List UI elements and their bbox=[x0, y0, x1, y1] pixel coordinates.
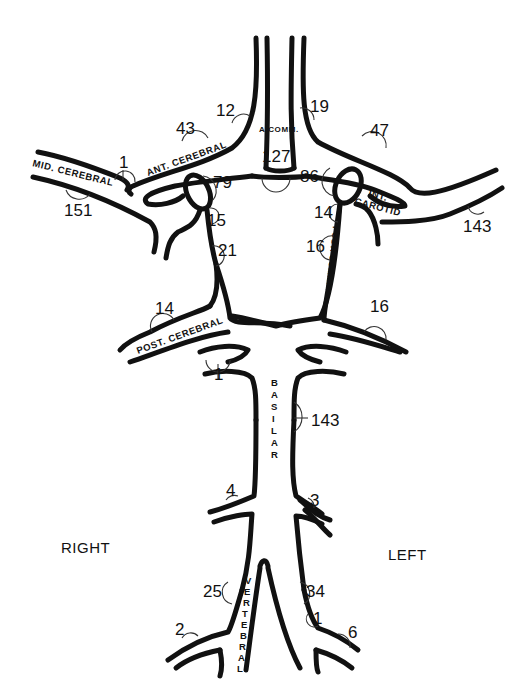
value-r-vertebral: 25 bbox=[203, 582, 222, 601]
svg-text:E: E bbox=[241, 619, 248, 630]
value-r-carotid-top: 79 bbox=[213, 173, 232, 192]
value-r-post-comm: 21 bbox=[218, 241, 237, 260]
value-basilar: 143 bbox=[311, 411, 339, 430]
svg-text:I: I bbox=[272, 413, 275, 424]
value-r-ant-cerebral: 43 bbox=[176, 119, 195, 138]
value-r-aica: 4 bbox=[226, 481, 235, 500]
svg-text:A: A bbox=[271, 437, 278, 448]
svg-text:R: R bbox=[271, 449, 278, 460]
value-l-post-cerebral: 16 bbox=[370, 297, 389, 316]
orientation-left-label: LEFT bbox=[388, 546, 427, 563]
value-l-aica: 3 bbox=[310, 491, 319, 510]
value-a-comm: 127 bbox=[262, 147, 290, 166]
value-l-vertebral: 34 bbox=[306, 582, 325, 601]
svg-text:B: B bbox=[271, 377, 278, 388]
value-r-pica: 2 bbox=[175, 620, 184, 639]
svg-text:A: A bbox=[271, 389, 278, 400]
circle-of-willis-diagram: MID. CEREBRAL ANT. CEREBRAL A.COMM. INT.… bbox=[0, 0, 528, 693]
value-r-carotid-low: 15 bbox=[207, 211, 226, 230]
value-r-mid-cerebral: 151 bbox=[64, 201, 92, 220]
svg-text:L: L bbox=[237, 663, 243, 674]
value-l-carotid-top: 86 bbox=[300, 167, 319, 186]
value-l-mid-cerebral: 143 bbox=[463, 217, 491, 236]
svg-text:T: T bbox=[242, 608, 248, 619]
svg-text:R: R bbox=[243, 597, 250, 608]
label-post-comm: POST. COMM. bbox=[325, 226, 340, 286]
value-l-ant-cerebral-distal: 19 bbox=[310, 97, 329, 116]
svg-text:L: L bbox=[271, 425, 277, 436]
value-l-ant-cerebral: 47 bbox=[370, 121, 389, 140]
value-r-mid-cerebral-branch: 1 bbox=[119, 153, 128, 172]
svg-text:B: B bbox=[240, 630, 247, 641]
svg-text:S: S bbox=[271, 401, 278, 412]
value-r-ant-cerebral-distal: 12 bbox=[216, 101, 235, 120]
label-a-comm: A.COMM. bbox=[259, 125, 299, 134]
svg-text:E: E bbox=[244, 586, 251, 597]
value-l-pica: 6 bbox=[348, 623, 357, 642]
orientation-right-label: RIGHT bbox=[61, 539, 110, 556]
value-l-pica-branch: 1 bbox=[313, 609, 322, 628]
value-r-post-cerebral: 14 bbox=[155, 299, 174, 318]
value-l-carotid-low: 14 bbox=[314, 203, 333, 222]
label-basilar: B A S I L A R bbox=[271, 377, 278, 460]
value-l-post-comm: 16 bbox=[306, 237, 325, 256]
svg-text:V: V bbox=[245, 575, 252, 586]
value-r-sup-cerebellar: 1 bbox=[214, 365, 223, 384]
svg-text:R: R bbox=[239, 641, 246, 652]
svg-text:A: A bbox=[238, 652, 245, 663]
